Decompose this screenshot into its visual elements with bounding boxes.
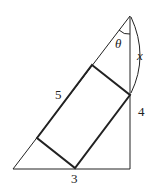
vertical-side-label: 4	[138, 104, 145, 119]
hypotenuse-label: 5	[55, 87, 62, 102]
labels-layer: θ x 5 4 3	[0, 0, 154, 194]
segment-x-label: x	[136, 48, 143, 63]
angle-label: θ	[115, 36, 122, 51]
base-label: 3	[71, 171, 78, 186]
